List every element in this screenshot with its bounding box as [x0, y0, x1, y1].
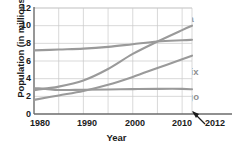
population-line-chart: Population (in millions) 12 10 8 6 4 2 0…: [0, 0, 233, 150]
plot-area: [0, 0, 233, 150]
